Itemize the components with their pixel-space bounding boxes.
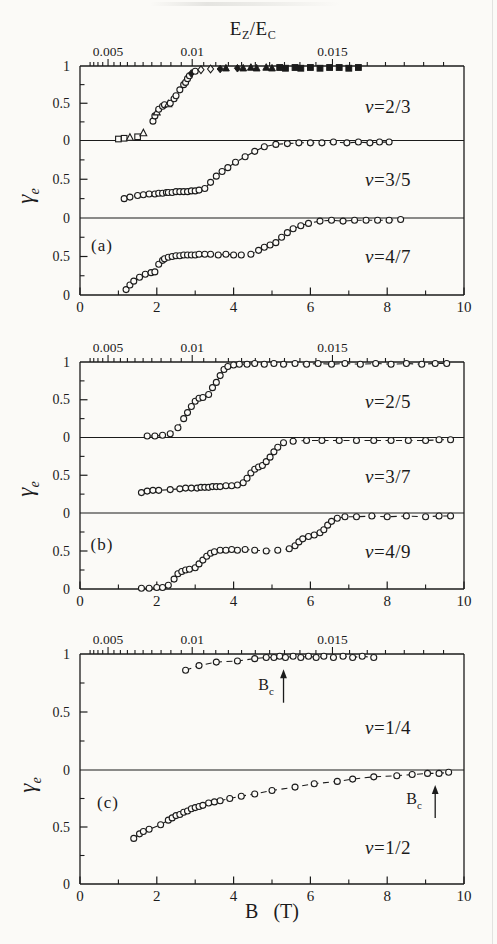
tick-label: 6	[307, 593, 315, 609]
tick-label: 10	[457, 888, 472, 904]
panel-letter-c: (c)	[97, 794, 119, 811]
tick-label: 4	[230, 299, 238, 315]
bc-critical-field-label-1-4: Bc	[258, 677, 274, 696]
tick-label: 0.5	[53, 820, 71, 835]
nu-label-2-3: ν=2/3	[365, 97, 411, 116]
tick-label: 10	[457, 299, 472, 315]
tick-label: 2	[153, 593, 161, 609]
tick-label: 2	[153, 299, 161, 315]
data-points-4-7	[123, 217, 404, 293]
y-axis-label-a: γe	[14, 188, 42, 203]
top-axis-title: EZ/EC	[230, 19, 276, 42]
tick-label: 1	[63, 647, 70, 662]
tick-label: 0	[63, 582, 70, 597]
tick-label: 1	[63, 59, 70, 74]
tick-label: 10	[457, 593, 472, 609]
tick-label: 0.005	[93, 44, 124, 59]
data-points-1-4	[183, 653, 377, 673]
tick-label: 0.5	[53, 249, 71, 264]
tick-label: 8	[383, 593, 391, 609]
tick-label: 4	[230, 593, 238, 609]
tick-label: 0.01	[180, 340, 204, 355]
scan-artifact	[492, 0, 493, 944]
tick-label: 0	[63, 133, 70, 148]
tick-label: 0	[63, 763, 70, 778]
tick-label: 0.015	[317, 44, 348, 59]
tick-label: 0.01	[180, 632, 204, 647]
y-axis-label-b: γe	[14, 481, 42, 496]
nu-label-2-5: ν=2/5	[365, 392, 411, 411]
tick-label: 0	[63, 506, 70, 521]
tick-label: 0	[76, 888, 84, 904]
tick-label: 0	[63, 430, 70, 445]
bc-critical-field-label-1-2: Bc	[406, 791, 422, 810]
bc-arrow	[432, 785, 439, 818]
data-points-3-5	[121, 139, 392, 202]
nu-label-3-5: ν=3/5	[365, 170, 411, 189]
tick-label: 0.5	[53, 705, 71, 720]
tick-label: 0.005	[93, 340, 124, 355]
tick-label: 4	[230, 888, 238, 904]
y-axis-label-c: γe	[16, 777, 44, 792]
bc-arrow	[280, 669, 287, 702]
nu-label-4-9: ν=4/9	[365, 542, 411, 561]
tick-label: 0	[63, 877, 70, 892]
nu-label-3-7: ν=3/7	[365, 467, 411, 486]
tick-label: 8	[383, 888, 391, 904]
figure: 0.0050.010.015024681010.500.500.500.0050…	[0, 0, 497, 944]
tick-label: 0	[63, 211, 70, 226]
tick-label: 1	[63, 355, 70, 370]
tick-label: 2	[153, 888, 161, 904]
tick-label: 0.005	[93, 632, 124, 647]
tick-label: 6	[307, 299, 315, 315]
tick-label: 0.5	[53, 468, 71, 483]
tick-label: 0	[63, 288, 70, 303]
x-axis-label: B (T)	[245, 901, 299, 921]
panel-c: 0.0050.010.015024681010.500.50	[53, 632, 472, 904]
tick-label: 0.01	[180, 44, 204, 59]
nu-label-4-7: ν=4/7	[365, 247, 411, 266]
tick-label: 0.5	[53, 544, 71, 559]
tick-label: 0.5	[53, 172, 71, 187]
nu-label-1-2: ν=1/2	[365, 838, 411, 857]
tick-label: 0.5	[53, 392, 71, 407]
tick-label: 6	[307, 888, 315, 904]
figure-svg: 0.0050.010.015024681010.500.500.500.0050…	[0, 0, 497, 944]
tick-label: 0	[76, 299, 84, 315]
data-points-1-2	[131, 769, 452, 841]
data-points-2-3	[116, 64, 362, 142]
panel-letter-b: (b)	[91, 536, 114, 553]
tick-label: 0.015	[317, 632, 348, 647]
nu-label-1-4: ν=1/4	[365, 718, 411, 737]
tick-label: 8	[383, 299, 391, 315]
data-curve	[134, 772, 449, 838]
tick-label: 0.015	[317, 340, 348, 355]
scan-artifact	[150, 2, 340, 6]
tick-label: 0.5	[53, 96, 71, 111]
panel-letter-a: (a)	[91, 237, 113, 254]
tick-label: 0	[76, 593, 84, 609]
